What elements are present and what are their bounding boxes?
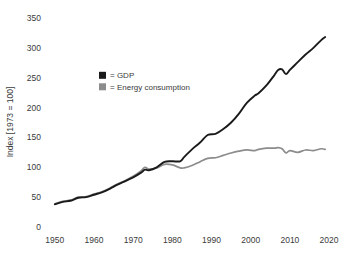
series-line-gdp: [55, 37, 325, 204]
chart-legend: = GDP= Energy consumption: [99, 71, 190, 92]
y-tick-label: 350: [27, 13, 41, 23]
x-tick-label: 2020: [320, 235, 339, 245]
index-line-chart: 050100150200250300350 195019601970198019…: [0, 0, 350, 258]
y-tick-label: 0: [36, 222, 41, 232]
y-tick-label: 150: [27, 132, 41, 142]
legend-swatch-gdp: [99, 72, 106, 79]
x-tick-label: 1960: [85, 235, 104, 245]
x-tick-label: 1950: [45, 235, 64, 245]
chart-container: 050100150200250300350 195019601970198019…: [0, 0, 350, 258]
series-lines: [55, 37, 325, 204]
x-tick-label: 1980: [163, 235, 182, 245]
x-tick-label: 2000: [241, 235, 260, 245]
y-tick-label: 250: [27, 73, 41, 83]
y-tick-label: 200: [27, 103, 41, 113]
x-tick-label: 2010: [280, 235, 299, 245]
y-axis-title: Index [1973 = 100]: [5, 87, 15, 158]
y-tick-label: 50: [32, 192, 42, 202]
y-tick-label: 300: [27, 43, 41, 53]
legend-label-energy-consumption: = Energy consumption: [110, 83, 190, 92]
y-axis-tick-labels: 050100150200250300350: [27, 13, 41, 232]
x-tick-label: 1990: [202, 235, 221, 245]
legend-swatch-energy-consumption: [99, 83, 106, 90]
x-axis-tick-labels: 19501960197019801990200020102020: [45, 235, 338, 245]
y-tick-label: 100: [27, 162, 41, 172]
x-tick-label: 1970: [124, 235, 143, 245]
legend-label-gdp: = GDP: [110, 71, 134, 80]
